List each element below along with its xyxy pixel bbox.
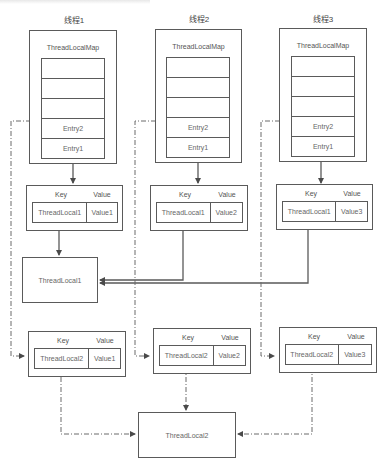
map-slot bbox=[166, 77, 230, 98]
entry-value-cell: Value1 bbox=[88, 348, 121, 369]
value-header: Value bbox=[215, 334, 245, 341]
map-slot bbox=[41, 78, 105, 99]
entry-value-cell: Value2 bbox=[210, 202, 244, 223]
key-header: Key bbox=[41, 191, 81, 198]
value-header: Value bbox=[87, 191, 117, 198]
entry-key-cell: ThreadLocal2 bbox=[34, 348, 89, 369]
key-header: Key bbox=[294, 333, 334, 340]
thread-2-entry-stack: Entry2 Entry1 bbox=[166, 57, 230, 158]
map-slot-entry2: Entry2 bbox=[291, 116, 355, 137]
entry-value-cell: Value1 bbox=[86, 202, 118, 223]
map-slot bbox=[41, 58, 105, 79]
thread-1-entry2-box: Key Value ThreadLocal2 Value1 bbox=[28, 331, 126, 377]
value-header: Value bbox=[341, 333, 371, 340]
entry-row: ThreadLocal2 Value3 bbox=[285, 344, 372, 365]
map-slot-entry2: Entry2 bbox=[41, 118, 105, 139]
map-slot bbox=[291, 96, 355, 117]
map-slot bbox=[291, 76, 355, 97]
value-header: Value bbox=[90, 337, 120, 344]
map-slot-entry1: Entry1 bbox=[166, 137, 230, 158]
cropped-top-strip bbox=[0, 0, 150, 4]
thread-1-entry1-box: Key Value ThreadLocal1 Value1 bbox=[26, 185, 123, 231]
map-slot-entry1: Entry1 bbox=[291, 136, 355, 157]
entry-row: ThreadLocal1 Value2 bbox=[156, 202, 243, 223]
thread-2-entry1-box: Key Value ThreadLocal1 Value2 bbox=[150, 185, 248, 231]
thread-3-entry2-box: Key Value ThreadLocal2 Value3 bbox=[279, 327, 377, 373]
map-slot bbox=[291, 56, 355, 77]
key-header: Key bbox=[168, 334, 208, 341]
thread-3-entry-stack: Entry2 Entry1 bbox=[291, 56, 355, 157]
thread-2-map-label: ThreadLocalMap bbox=[156, 43, 241, 50]
entry-value-cell: Value3 bbox=[338, 344, 372, 365]
map-slot-entry2: Entry2 bbox=[166, 117, 230, 138]
entry-key-cell: ThreadLocal1 bbox=[156, 202, 211, 223]
entry-key-cell: ThreadLocal2 bbox=[285, 344, 339, 365]
thread-2-title: 线程2 bbox=[169, 13, 229, 24]
threadlocal1-box: ThreadLocal1 bbox=[22, 257, 98, 303]
key-header: Key bbox=[291, 190, 331, 197]
entry-row: ThreadLocal2 Value1 bbox=[34, 348, 121, 369]
value-header: Value bbox=[212, 191, 242, 198]
entry-key-cell: ThreadLocal1 bbox=[32, 202, 87, 223]
thread-2-entry2-box: Key Value ThreadLocal2 Value2 bbox=[153, 328, 251, 374]
threadlocal2-box: ThreadLocal2 bbox=[138, 412, 236, 458]
thread-1-map-label: ThreadLocalMap bbox=[30, 44, 116, 51]
map-slot bbox=[41, 98, 105, 119]
map-slot bbox=[166, 57, 230, 78]
value-header: Value bbox=[337, 190, 367, 197]
thread-3-map-label: ThreadLocalMap bbox=[280, 42, 366, 49]
entry-key-cell: ThreadLocal2 bbox=[159, 345, 214, 366]
entry-row: ThreadLocal1 Value1 bbox=[32, 202, 118, 223]
thread-3-title: 线程3 bbox=[293, 13, 353, 24]
entry-value-cell: Value2 bbox=[213, 345, 247, 366]
thread-1-entry-stack: Entry2 Entry1 bbox=[41, 58, 105, 159]
map-slot-entry1: Entry1 bbox=[41, 138, 105, 159]
thread-3-entry1-box: Key Value ThreadLocal1 Value3 bbox=[276, 184, 373, 230]
entry-row: ThreadLocal2 Value2 bbox=[159, 345, 246, 366]
thread-1-title: 线程1 bbox=[44, 14, 104, 25]
entry-key-cell: ThreadLocal1 bbox=[282, 201, 336, 222]
entry-value-cell: Value3 bbox=[335, 201, 368, 222]
key-header: Key bbox=[165, 191, 205, 198]
map-slot bbox=[166, 97, 230, 118]
key-header: Key bbox=[43, 337, 83, 344]
entry-row: ThreadLocal1 Value3 bbox=[282, 201, 368, 222]
